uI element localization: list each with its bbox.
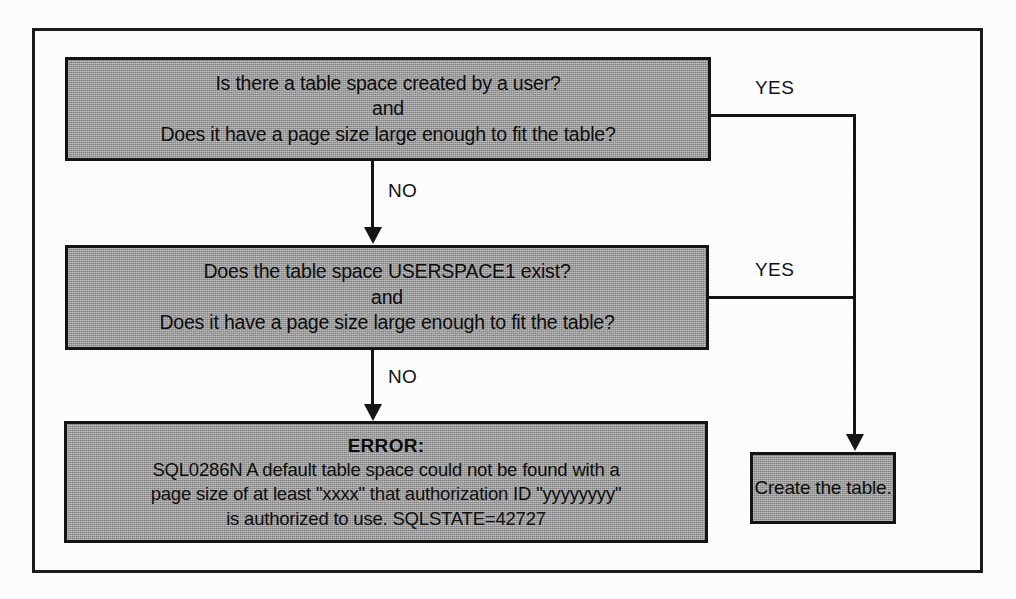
edge-q1-yes-line: [711, 114, 856, 117]
error-node-sql0286n: ERROR: SQL0286N A default table space co…: [64, 421, 708, 543]
edge-label-q2-yes: YES: [755, 259, 794, 281]
edge-label-q1-no: NO: [388, 180, 417, 202]
q1-line-1: Is there a table space created by a user…: [215, 71, 560, 96]
arrowhead-down-icon: [846, 434, 864, 451]
create-table-label: Create the table.: [754, 476, 891, 501]
q1-line-2: and: [372, 96, 404, 121]
edge-label-q1-yes: YES: [755, 77, 794, 99]
q2-line-3: Does it have a page size large enough to…: [159, 310, 614, 335]
edge-q2-no-line: [371, 350, 374, 406]
decision-node-user-table-space: Is there a table space created by a user…: [65, 57, 711, 161]
arrowhead-down-icon: [364, 404, 382, 421]
error-line-2: page size of at least "xxxx" that author…: [151, 482, 622, 506]
edge-label-q2-no: NO: [388, 366, 417, 388]
arrowhead-down-icon: [364, 227, 382, 244]
error-line-3: is authorized to use. SQLSTATE=42727: [226, 507, 546, 531]
flowchart-canvas: Is there a table space created by a user…: [0, 0, 1016, 599]
q1-line-3: Does it have a page size large enough to…: [160, 122, 615, 147]
edge-q1-no-line: [371, 161, 374, 229]
action-node-create-table: Create the table.: [750, 452, 896, 524]
decision-node-userspace1: Does the table space USERSPACE1 exist? a…: [65, 245, 709, 350]
edge-q2-yes-line: [709, 296, 856, 299]
q2-line-1: Does the table space USERSPACE1 exist?: [203, 259, 570, 284]
q2-line-2: and: [371, 285, 403, 310]
error-line-1: SQL0286N A default table space could not…: [152, 458, 619, 482]
error-title: ERROR:: [348, 433, 425, 458]
edge-yes-vertical-line: [853, 114, 856, 437]
